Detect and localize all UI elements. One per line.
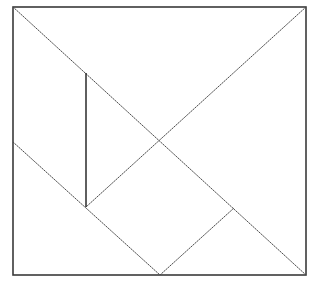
diagram-canvas — [0, 0, 317, 285]
tangram-diagram — [0, 0, 317, 285]
segment-group — [13, 7, 306, 275]
diagonal-tr-to-inner-line — [86, 7, 306, 207]
main-diagonal-tl-br-line — [13, 7, 306, 275]
lower-right-diagonal-line — [160, 208, 234, 275]
